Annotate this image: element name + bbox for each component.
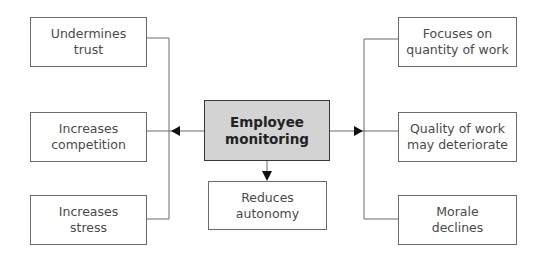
node-employee-monitoring: Employeemonitoring <box>204 100 330 161</box>
node-text: Reduces <box>236 190 299 206</box>
node-text: Increases <box>51 121 126 137</box>
right-bracket-line <box>364 39 398 219</box>
node-morale-declines: Moraledeclines <box>398 195 517 245</box>
left-bracket-line <box>147 38 169 219</box>
node-text: declines <box>432 220 484 236</box>
node-text: stress <box>59 220 118 236</box>
node-increases-competition: Increasescompetition <box>30 112 147 162</box>
node-text: trust <box>51 42 126 58</box>
node-increases-stress: Increasesstress <box>30 195 147 245</box>
node-text: Employee <box>225 114 309 131</box>
node-reduces-autonomy: Reducesautonomy <box>208 181 327 230</box>
node-text: may deteriorate <box>407 137 508 153</box>
node-quality-may-deteriorate: Quality of workmay deteriorate <box>398 112 517 162</box>
node-text: quantity of work <box>406 42 508 58</box>
left-arrow-icon <box>171 126 180 136</box>
node-text: Undermines <box>51 26 126 42</box>
right-arrow-icon <box>354 126 363 136</box>
node-focuses-on-quantity: Focuses onquantity of work <box>398 17 517 67</box>
node-text: autonomy <box>236 206 299 222</box>
node-text: monitoring <box>225 131 309 148</box>
node-text: competition <box>51 137 126 153</box>
node-text: Increases <box>59 204 118 220</box>
node-undermines-trust: Underminestrust <box>30 17 147 67</box>
node-text: Focuses on <box>406 26 508 42</box>
node-text: Morale <box>432 204 484 220</box>
node-text: Quality of work <box>407 121 508 137</box>
down-arrow-icon <box>262 171 272 181</box>
